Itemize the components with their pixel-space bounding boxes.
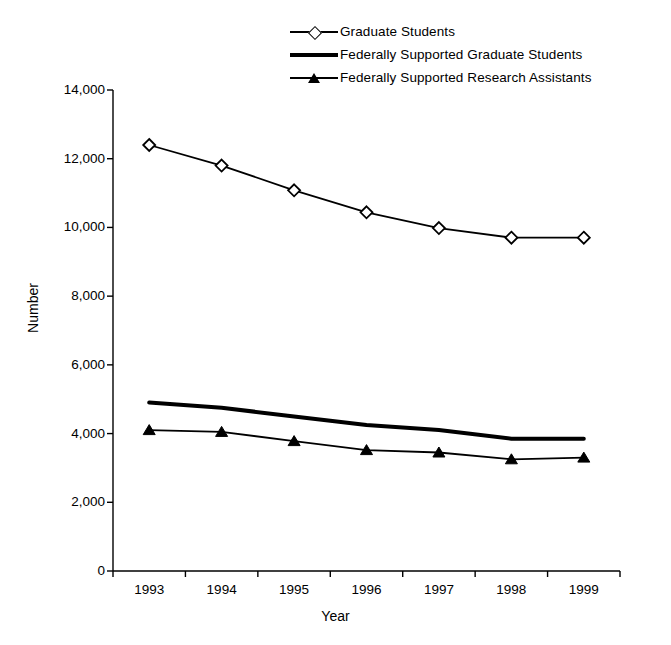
data-point-marker: [143, 139, 155, 151]
x-tick-label: 1996: [332, 583, 402, 597]
data-point-marker: [433, 222, 445, 234]
x-axis-title: Year: [0, 608, 671, 624]
x-tick-label: 1998: [476, 583, 546, 597]
data-point-marker: [578, 232, 590, 244]
y-tick-label: 12,000: [29, 152, 105, 166]
y-tick-label: 2,000: [29, 495, 105, 509]
data-point-marker: [216, 160, 228, 172]
y-tick-label: 10,000: [29, 220, 105, 234]
x-tick-label: 1994: [187, 583, 257, 597]
chart-figure: Graduate Students Federally Supported Gr…: [0, 0, 671, 645]
x-tick-label: 1995: [259, 583, 329, 597]
x-tick-label: 1999: [549, 583, 619, 597]
data-point-marker: [288, 184, 300, 196]
y-axis-title: Number: [25, 253, 41, 363]
series-line-1: [149, 403, 584, 439]
y-tick-label: 0: [29, 564, 105, 578]
y-tick-label: 14,000: [29, 83, 105, 97]
x-axis-tick-labels: 1993199419951996199719981999: [0, 583, 671, 603]
x-tick-label: 1997: [404, 583, 474, 597]
y-tick-label: 4,000: [29, 427, 105, 441]
x-tick-label: 1993: [114, 583, 184, 597]
data-point-marker: [505, 232, 517, 244]
data-point-marker: [361, 206, 373, 218]
series-line-0: [149, 145, 584, 238]
